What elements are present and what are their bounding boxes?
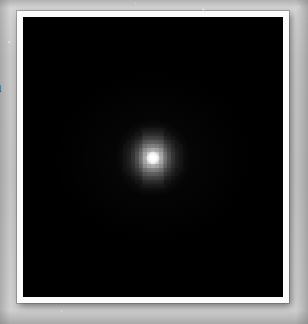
margin-caption-fragment: n: [0, 77, 2, 97]
figure-panel: [17, 11, 289, 303]
psf-pixel: [179, 184, 183, 188]
psf-image-canvas[interactable]: [23, 17, 283, 297]
point-source-psf: [121, 126, 185, 190]
psf-pixel-grid: [123, 128, 183, 188]
document-page: n: [0, 0, 308, 324]
